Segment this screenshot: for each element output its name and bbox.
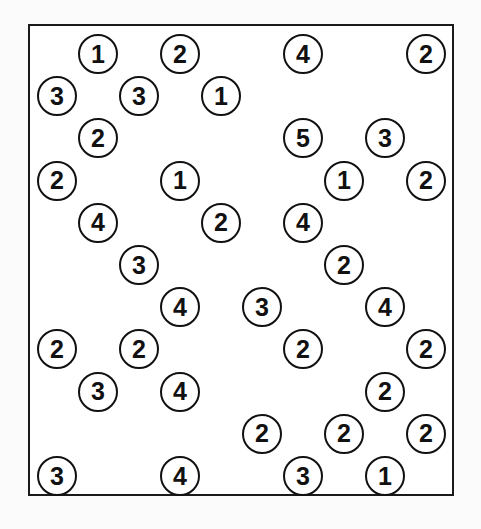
island-r9-c7[interactable]: 2 (324, 414, 364, 454)
island-r0-c1[interactable]: 1 (78, 34, 118, 74)
island-r7-c2[interactable]: 2 (119, 329, 159, 369)
island-r6-c3[interactable]: 4 (160, 287, 200, 327)
island-r4-c4[interactable]: 2 (201, 203, 241, 243)
island-r0-c3[interactable]: 2 (160, 34, 200, 74)
island-r10-c8[interactable]: 1 (365, 456, 405, 496)
island-r3-c7[interactable]: 1 (324, 161, 364, 201)
island-r7-c0[interactable]: 2 (37, 329, 77, 369)
island-r10-c6[interactable]: 3 (283, 456, 323, 496)
island-r3-c9[interactable]: 2 (406, 161, 446, 201)
island-r2-c6[interactable]: 5 (283, 118, 323, 158)
island-r10-c0[interactable]: 3 (37, 456, 77, 496)
island-r7-c9[interactable]: 2 (406, 329, 446, 369)
island-r10-c3[interactable]: 4 (160, 456, 200, 496)
island-r0-c9[interactable]: 2 (406, 34, 446, 74)
island-r9-c5[interactable]: 2 (242, 414, 282, 454)
puzzle-board: 124233125321124243243422223422223431 (28, 24, 454, 496)
island-r6-c8[interactable]: 4 (365, 287, 405, 327)
island-r8-c3[interactable]: 4 (160, 372, 200, 412)
island-r7-c6[interactable]: 2 (283, 329, 323, 369)
island-r5-c2[interactable]: 3 (119, 245, 159, 285)
island-r3-c3[interactable]: 1 (160, 161, 200, 201)
island-r4-c1[interactable]: 4 (78, 203, 118, 243)
island-r8-c1[interactable]: 3 (78, 372, 118, 412)
island-r1-c2[interactable]: 3 (119, 76, 159, 116)
island-r3-c0[interactable]: 2 (37, 161, 77, 201)
island-r6-c5[interactable]: 3 (242, 287, 282, 327)
island-r2-c8[interactable]: 3 (365, 118, 405, 158)
island-r5-c7[interactable]: 2 (324, 245, 364, 285)
island-r1-c0[interactable]: 3 (37, 76, 77, 116)
island-r9-c9[interactable]: 2 (406, 414, 446, 454)
island-r0-c6[interactable]: 4 (283, 34, 323, 74)
island-r8-c8[interactable]: 2 (365, 372, 405, 412)
island-r4-c6[interactable]: 4 (283, 203, 323, 243)
island-r1-c4[interactable]: 1 (201, 76, 241, 116)
island-r2-c1[interactable]: 2 (78, 118, 118, 158)
